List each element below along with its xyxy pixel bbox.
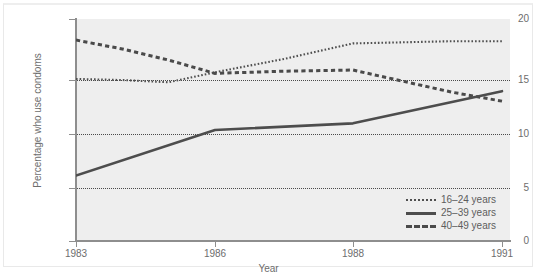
y-tick-5	[69, 188, 76, 189]
legend-swatch-dashed-icon	[406, 221, 436, 231]
x-tick-label-1988: 1988	[323, 248, 383, 259]
x-tick-1983	[76, 241, 77, 247]
line-chart: 20 15 10 5 0 1983 1986 1988 1991 Year Pe…	[8, 7, 529, 257]
series-line-16-24	[76, 41, 502, 82]
x-tick-1986	[215, 241, 216, 247]
x-axis-title: Year	[8, 263, 529, 274]
legend-label-16-24: 16–24 years	[441, 194, 496, 205]
x-tick-label-1991: 1991	[472, 248, 532, 259]
legend-label-40-49: 40–49 years	[441, 220, 496, 231]
x-tick-label-1983: 1983	[46, 248, 106, 259]
chart-legend: 16–24 years 25–39 years 40–49 years	[406, 193, 514, 232]
legend-item-16-24: 16–24 years	[406, 193, 514, 206]
legend-swatch-solid-icon	[406, 208, 436, 218]
series-line-25-39	[76, 91, 502, 175]
y-tick-15	[69, 80, 76, 81]
legend-item-40-49: 40–49 years	[406, 219, 514, 232]
series-line-40-49	[76, 40, 502, 101]
y-tick-0	[69, 241, 76, 242]
legend-label-25-39: 25–39 years	[441, 207, 496, 218]
x-tick-label-1986: 1986	[185, 248, 245, 259]
x-tick-1988	[353, 241, 354, 247]
y-axis-title: Percentage who use condoms	[32, 31, 43, 211]
y-tick-20	[69, 19, 76, 20]
y-tick-10	[69, 134, 76, 135]
legend-item-25-39: 25–39 years	[406, 206, 514, 219]
legend-swatch-dotted-icon	[406, 195, 436, 205]
x-tick-1991	[502, 241, 503, 247]
